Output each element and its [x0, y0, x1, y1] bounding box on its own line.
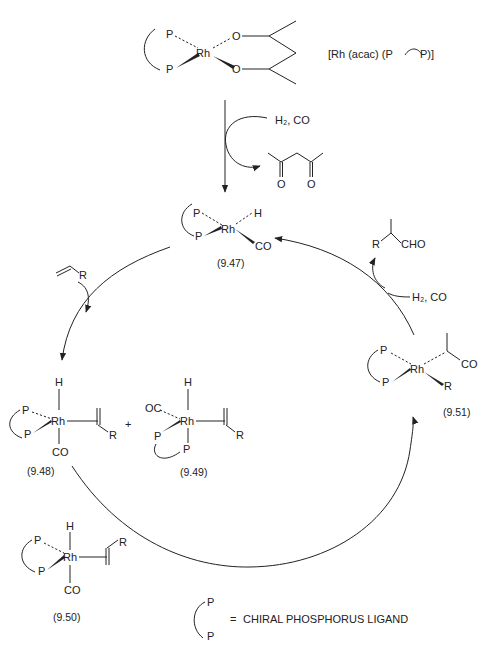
- atom-o-top: O: [232, 30, 241, 42]
- species-label: (9.47): [217, 257, 244, 269]
- svg-text:=: =: [230, 613, 236, 625]
- legend: P P = CHIRAL PHOSPHORUS LIGAND: [194, 596, 408, 642]
- acac-skeleton: [242, 21, 296, 84]
- svg-text:Rh: Rh: [51, 415, 65, 427]
- svg-text:Rh: Rh: [221, 223, 235, 235]
- precatalyst-structure: P P Rh O O [Rh (acac) (P P)]: [144, 21, 434, 84]
- svg-text:R: R: [109, 429, 117, 441]
- species-9-51: P P Rh CO R (9.51): [368, 333, 478, 418]
- species-label: (9.49): [180, 466, 207, 478]
- alkene-arrow: [78, 282, 88, 312]
- product-arrow: [373, 258, 385, 288]
- acetylacetone-byproduct: O O: [268, 153, 323, 190]
- alkene-substituent: R: [79, 269, 87, 281]
- svg-text:H: H: [184, 376, 192, 388]
- species-9-47: P P Rh H CO (9.47): [182, 204, 272, 269]
- species-9-48: H P P Rh CO R (9.48): [10, 376, 117, 477]
- ligand-legend-arc: [194, 602, 205, 638]
- svg-text:P: P: [38, 565, 45, 577]
- svg-text:O: O: [277, 178, 286, 190]
- product-release: R CHO H₂, CO: [372, 219, 447, 303]
- species-label: (9.50): [53, 611, 80, 623]
- svg-text:CO: CO: [52, 446, 69, 458]
- precatalyst-formula-end: P)]: [420, 48, 434, 60]
- cycle-arcs: [62, 238, 414, 567]
- catalytic-cycle-diagram: P P Rh O O [Rh (acac) (P P)] H₂, CO O O: [0, 0, 483, 654]
- svg-text:H: H: [55, 376, 63, 388]
- activation-reagents: H₂, CO: [275, 114, 310, 126]
- species-9-50: H P P Rh CO R (9.50): [22, 520, 127, 623]
- atom-o-bottom: O: [232, 63, 241, 75]
- svg-text:Rh: Rh: [180, 415, 194, 427]
- svg-text:P: P: [22, 404, 29, 416]
- arc-to-9-48: [62, 247, 170, 360]
- svg-text:R: R: [119, 536, 127, 548]
- svg-text:P: P: [382, 376, 389, 388]
- svg-text:CO: CO: [64, 584, 81, 596]
- svg-text:CO: CO: [255, 240, 272, 252]
- arc-to-9-47: [275, 238, 414, 335]
- svg-text:H: H: [254, 207, 262, 219]
- ligand-backbone-arc: [368, 350, 380, 382]
- svg-text:P: P: [24, 428, 31, 440]
- curved-arrow: [225, 117, 267, 168]
- svg-text:P: P: [207, 630, 214, 642]
- ligand-backbone-arc: [10, 410, 22, 438]
- svg-text:R: R: [372, 238, 380, 250]
- ligand-backbone-arc: [154, 444, 180, 458]
- activation-step: H₂, CO O O: [225, 100, 323, 192]
- svg-text:O: O: [307, 178, 316, 190]
- svg-text:CO: CO: [461, 358, 478, 370]
- dashed-bond: [213, 38, 231, 48]
- atom-p-top: P: [166, 28, 173, 40]
- svg-text:Rh: Rh: [410, 363, 424, 375]
- svg-text:R: R: [444, 380, 452, 392]
- svg-text:R: R: [236, 429, 244, 441]
- svg-text:P: P: [34, 534, 41, 546]
- plus-sign: +: [125, 418, 131, 430]
- reagent-tail: [388, 293, 410, 297]
- svg-text:Rh: Rh: [63, 551, 77, 563]
- svg-text:P: P: [154, 430, 161, 442]
- species-label: (9.48): [27, 465, 54, 477]
- svg-text:P: P: [380, 344, 387, 356]
- svg-text:P: P: [183, 443, 190, 455]
- svg-text:H₂, CO: H₂, CO: [412, 291, 447, 303]
- atom-p-bottom: P: [166, 63, 173, 75]
- svg-text:OC: OC: [145, 402, 162, 414]
- svg-text:H: H: [66, 520, 74, 532]
- atom-rh: Rh: [196, 47, 210, 59]
- svg-text:CHO: CHO: [401, 238, 426, 250]
- alkene-input: R: [56, 266, 88, 312]
- dashed-bond: [175, 36, 198, 48]
- precatalyst-formula: [Rh (acac) (P: [328, 48, 393, 60]
- legend-text: CHIRAL PHOSPHORUS LIGAND: [243, 613, 408, 625]
- species-9-49: H OC Rh P P R (9.49): [145, 376, 244, 478]
- svg-text:P: P: [207, 596, 214, 608]
- svg-text:P: P: [193, 207, 200, 219]
- species-label: (9.51): [443, 406, 470, 418]
- svg-text:P: P: [195, 230, 202, 242]
- ligand-backbone-arc: [144, 29, 160, 70]
